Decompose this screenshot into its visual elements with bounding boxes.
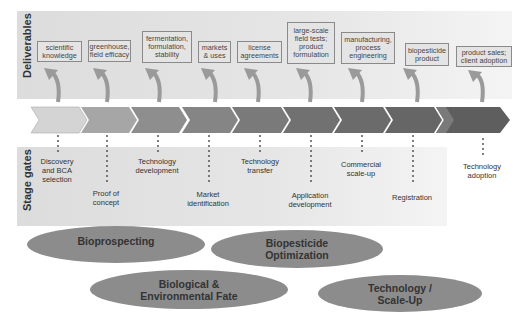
theme-label: Biopesticide Optimization — [252, 237, 342, 261]
gate-label: Technology transfer — [235, 157, 285, 175]
curved-arrow-icon — [52, 72, 483, 102]
gate-connector — [310, 135, 312, 185]
gate-connector — [259, 135, 261, 155]
gate-connector — [482, 138, 484, 158]
gate-connector — [208, 135, 210, 185]
gate-label: Market identification — [181, 190, 235, 208]
theme-technology-scale-up: Technology / Scale-Up — [318, 275, 482, 312]
theme-label: Technology / Scale-Up — [360, 282, 440, 306]
gate-connector — [157, 135, 159, 155]
gate-connector — [57, 135, 59, 155]
gate-connector — [412, 135, 414, 185]
gate-label: Commercial scale-up — [336, 160, 386, 178]
theme-biopesticide-optimization: Biopesticide Optimization — [211, 230, 383, 268]
gate-connector — [106, 135, 108, 185]
gate-label: Application development — [283, 191, 337, 209]
gate-label: Registration — [384, 193, 440, 202]
process-chevrons — [0, 106, 531, 134]
theme-label: Biological & Environmental Fate — [124, 278, 254, 302]
stage-gates-label: Stage gates — [21, 149, 33, 211]
gate-label: Technology adoption — [457, 162, 507, 180]
curved-arrows — [0, 0, 531, 110]
theme-label: Bioprospecting — [77, 235, 154, 247]
gate-label: Proof of concept — [88, 189, 124, 207]
theme-bioprospecting: Bioprospecting — [27, 226, 205, 263]
gate-label: Discovery and BCA selection — [37, 157, 77, 184]
theme-biological-environmental-fate: Biological & Environmental Fate — [90, 270, 288, 309]
gate-connector — [361, 135, 363, 155]
stage-gates-band — [17, 147, 447, 226]
gate-label: Technology development — [130, 157, 184, 175]
